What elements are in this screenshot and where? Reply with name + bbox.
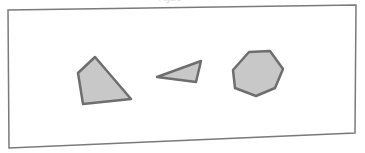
shapes-diagram (0, 0, 365, 153)
